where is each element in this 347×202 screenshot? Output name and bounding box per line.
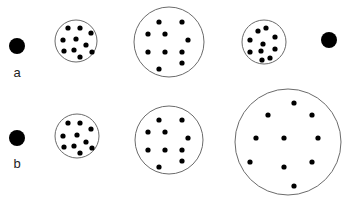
cluster-dot (77, 120, 82, 125)
cluster-dot (156, 164, 161, 169)
cluster-dot (179, 19, 184, 24)
cluster-dot (185, 37, 190, 42)
solid-dot (9, 38, 25, 54)
dot-cluster-circle (242, 20, 286, 64)
cluster-dot (89, 145, 94, 150)
cluster-dot (71, 143, 76, 148)
cluster-dot (265, 112, 270, 117)
dot-cluster-circle (55, 20, 97, 62)
cluster-dot (156, 117, 161, 122)
cluster-dot (272, 34, 277, 39)
cluster-dot (145, 129, 150, 134)
cluster-dot (162, 129, 167, 134)
cluster-outline (134, 7, 204, 77)
cluster-dot (156, 19, 161, 24)
cluster-dot (267, 55, 272, 60)
row-label: b (13, 156, 20, 171)
cluster-dot (60, 133, 65, 138)
row-b: b (9, 89, 341, 195)
cluster-outline (235, 89, 341, 195)
cluster-dot (247, 49, 252, 54)
cluster-dot (71, 47, 76, 52)
cluster-dot (291, 183, 296, 188)
cluster-dot (145, 31, 150, 36)
cluster-dot (77, 54, 82, 59)
cluster-dot (65, 120, 70, 125)
cluster-dot (65, 25, 70, 30)
cluster-dot (258, 48, 263, 53)
dot-cluster-circle (235, 89, 341, 195)
cluster-dot (77, 25, 82, 30)
cluster-dot (179, 158, 184, 163)
cluster-dot (145, 147, 150, 152)
solid-dot (321, 32, 337, 48)
row-a: a (9, 7, 337, 80)
cluster-dot (83, 42, 88, 47)
cluster-dot (255, 28, 260, 33)
cluster-dot (281, 135, 286, 140)
cluster-dot (88, 126, 93, 131)
cluster-dot (253, 135, 258, 140)
row-label: a (13, 65, 21, 80)
cluster-dot (260, 41, 265, 46)
cluster-dot (291, 100, 296, 105)
cluster-dot (309, 112, 314, 117)
cluster-dot (247, 37, 252, 42)
cluster-dot (263, 25, 268, 30)
cluster-dot (61, 48, 66, 53)
dot-cluster-circle (55, 114, 99, 158)
cluster-dot (74, 132, 79, 137)
cluster-dot (272, 46, 277, 51)
cluster-dot (73, 36, 78, 41)
cluster-dot (259, 57, 264, 62)
cluster-dot (89, 49, 94, 54)
dot-cluster-circle (134, 7, 204, 77)
cluster-dot (88, 30, 93, 35)
cluster-dot (309, 159, 314, 164)
cluster-dot (61, 144, 66, 149)
cluster-dot (162, 49, 167, 54)
cluster-dot (179, 49, 184, 54)
cluster-dot (179, 147, 184, 152)
cluster-outline (135, 106, 203, 174)
cluster-dot (77, 150, 82, 155)
cluster-dot (60, 37, 65, 42)
cluster-dot (247, 159, 252, 164)
cluster-dot (83, 139, 88, 144)
cluster-dot (156, 66, 161, 71)
dot-cluster-circle (135, 106, 203, 174)
cluster-dot (185, 135, 190, 140)
cluster-dot (315, 135, 320, 140)
figure-svg: ab (0, 0, 347, 202)
cluster-dot (179, 60, 184, 65)
cluster-dot (145, 49, 150, 54)
cluster-dot (162, 31, 167, 36)
cluster-dot (179, 117, 184, 122)
cluster-dot (162, 147, 167, 152)
solid-dot (9, 130, 25, 146)
cluster-dot (281, 164, 286, 169)
dot-clustering-figure: ab (0, 0, 347, 202)
